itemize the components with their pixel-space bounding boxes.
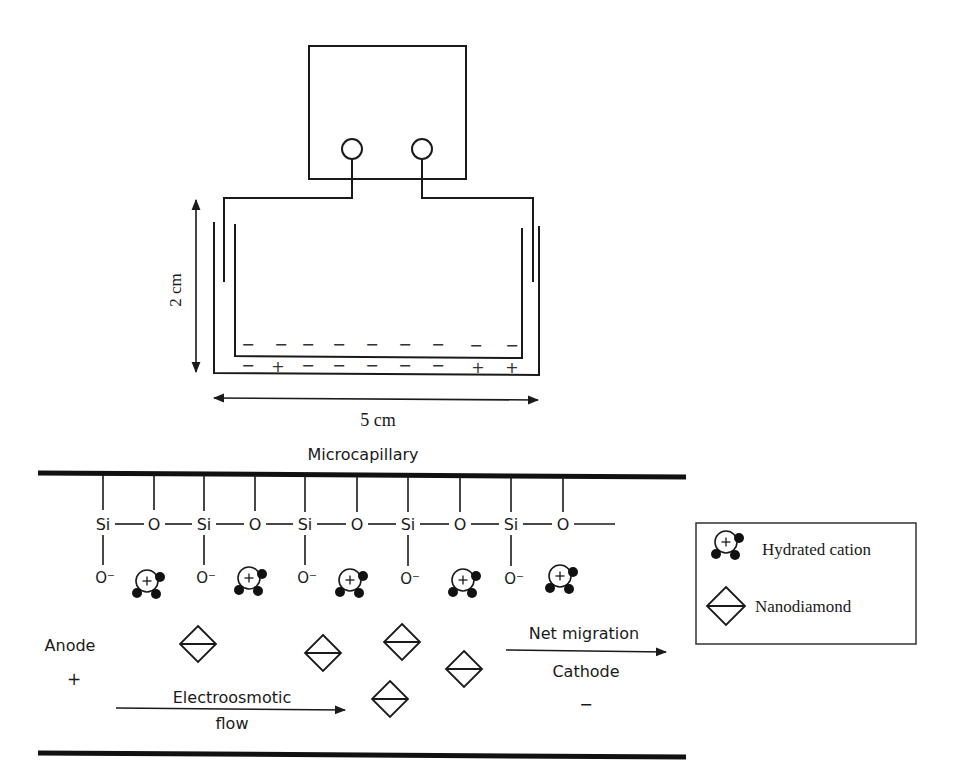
svg-text:O: O (148, 515, 161, 534)
capillary-top-wall (38, 473, 686, 477)
net-migration-label: Net migration (529, 624, 639, 643)
svg-text:−: − (431, 335, 444, 354)
anode-sign: + (67, 669, 81, 689)
wires (224, 159, 533, 282)
svg-text:O: O (249, 515, 262, 534)
svg-text:−: − (241, 335, 254, 354)
silanolate-label: O⁻ (196, 569, 216, 587)
svg-text:−: − (241, 356, 254, 375)
legend: Hydrated cation Nanodiamond (696, 523, 916, 644)
terminal-right-icon (412, 139, 432, 159)
wire-left (224, 159, 352, 282)
width-arrow-icon (214, 398, 538, 400)
wire-right (422, 159, 533, 282)
eof-label-line2: flow (216, 714, 249, 733)
silanolate-label: O⁻ (504, 570, 524, 588)
svg-text:−: − (301, 356, 314, 375)
svg-text:−: − (431, 356, 444, 375)
height-label: 2 cm (166, 273, 185, 307)
hydrated-cation-icon (448, 569, 481, 598)
svg-text:−: − (274, 335, 287, 354)
hydrated-cation-icon (132, 570, 165, 599)
svg-text:O: O (557, 515, 570, 534)
width-dimension: 5 cm (214, 398, 538, 430)
svg-text:Si: Si (197, 515, 212, 534)
legend-label-cation: Hydrated cation (762, 540, 872, 559)
upper-charges: − − − − − − − − − (241, 335, 518, 355)
svg-text:−: − (365, 356, 378, 375)
nanodiamond-icon (384, 624, 420, 660)
nanodiamond-icon (180, 626, 216, 662)
hydrated-cation-icon (234, 567, 267, 596)
nanodiamond-icon (372, 681, 408, 717)
net-migration-arrow-icon (506, 650, 666, 652)
eof-label-line1: Electroosmotic (173, 688, 292, 707)
silanolate-label: O⁻ (400, 570, 420, 588)
height-dimension: 2 cm (166, 200, 196, 372)
svg-text:−: − (398, 335, 411, 354)
eof-arrow-icon (116, 708, 345, 710)
hydrated-cation-icon (545, 565, 578, 594)
svg-text:−: − (398, 356, 411, 375)
power-supply (309, 46, 466, 179)
nanodiamond-icon (446, 651, 482, 687)
svg-text:−: − (332, 335, 345, 354)
hydrated-cation-icon (335, 569, 368, 598)
nanodiamond-icon (305, 635, 341, 671)
svg-text:−: − (332, 356, 345, 375)
microcapillary-title: Microcapillary (307, 445, 418, 464)
power-supply-box (309, 46, 466, 179)
svg-text:−: − (365, 335, 378, 354)
svg-text:−: − (301, 335, 314, 354)
svg-text:Si: Si (96, 515, 111, 534)
svg-text:+: + (505, 358, 518, 377)
cathode-sign: − (579, 695, 592, 714)
svg-text:+: + (271, 357, 284, 376)
svg-text:+: + (471, 358, 484, 377)
svg-text:Si: Si (401, 515, 416, 534)
svg-text:Si: Si (504, 515, 519, 534)
svg-text:−: − (469, 336, 482, 355)
svg-text:O: O (351, 515, 364, 534)
svg-text:Si: Si (298, 515, 313, 534)
capillary-bottom-wall (38, 753, 686, 757)
silanolate-label: O⁻ (95, 569, 115, 587)
svg-text:O: O (454, 515, 467, 534)
legend-label-nanodiamond: Nanodiamond (755, 597, 852, 616)
width-label: 5 cm (360, 410, 396, 430)
silanolate-label: O⁻ (297, 569, 317, 587)
terminal-left-icon (342, 139, 362, 159)
electrophoresis-diagram: − − − − − − − − − − + − − − − − + + 2 cm… (0, 0, 960, 781)
svg-text:−: − (505, 336, 518, 355)
cathode-label: Cathode (552, 662, 619, 681)
anode-label: Anode (45, 636, 96, 655)
